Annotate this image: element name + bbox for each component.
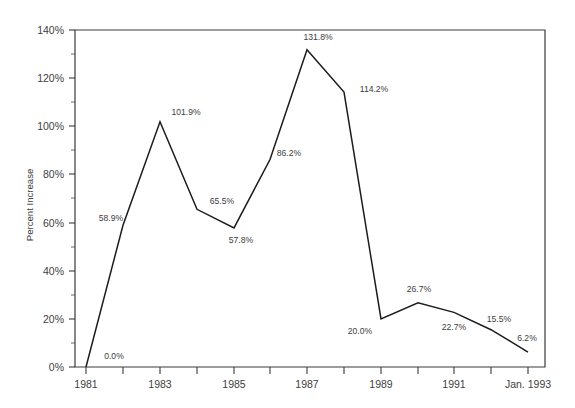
point-label-1983: 101.9%: [171, 107, 201, 117]
point-label-1993: 6.2%: [517, 333, 537, 343]
y-tick-label-0: 0%: [49, 361, 64, 373]
point-label-1988: 114.2%: [360, 84, 389, 94]
y-tick-label-60: 60%: [43, 217, 64, 229]
x-tick-label-1981: 1981: [74, 378, 98, 390]
line-chart: 0% 20% 40% 60% 80% 100% 120% 140% Percen…: [0, 0, 575, 408]
point-label-1992: 15.5%: [487, 314, 512, 324]
x-tick-label-1989: 1989: [369, 378, 393, 390]
point-label-1981: 0.0%: [104, 351, 124, 361]
x-tick-label-1983: 1983: [148, 378, 172, 390]
y-tick-label-100: 100%: [37, 120, 64, 132]
point-label-1987: 131.8%: [303, 32, 333, 42]
y-tick-label-20: 20%: [43, 313, 64, 325]
y-tick-label-40: 40%: [43, 265, 64, 277]
data-series-line: [86, 50, 528, 367]
plot-frame: [75, 30, 545, 367]
point-label-1984: 65.5%: [210, 196, 235, 206]
point-label-1986: 86.2%: [277, 148, 302, 158]
y-tick-label-80: 80%: [43, 168, 64, 180]
x-tick-label-1993: Jan. 1993: [505, 378, 551, 390]
x-axis-ticks: [86, 367, 528, 374]
y-tick-label-140: 140%: [37, 24, 64, 36]
point-label-1989: 20.0%: [348, 326, 373, 336]
point-label-1985: 57.8%: [229, 235, 254, 245]
chart-page: 0% 20% 40% 60% 80% 100% 120% 140% Percen…: [0, 0, 575, 408]
x-tick-label-1987: 1987: [295, 378, 319, 390]
point-label-1982: 58.9%: [99, 213, 124, 223]
x-tick-label-1991: 1991: [442, 378, 466, 390]
point-label-1990: 26.7%: [407, 284, 432, 294]
x-tick-label-1985: 1985: [222, 378, 246, 390]
point-label-1991: 22.7%: [442, 322, 467, 332]
y-axis-title: Percent Increase: [24, 169, 35, 242]
y-tick-label-120: 120%: [37, 72, 64, 84]
y-axis-major-ticks: [69, 30, 75, 367]
